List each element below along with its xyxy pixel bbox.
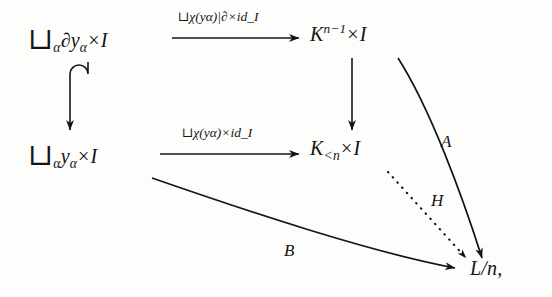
node-bottom-right: L/n, (470, 258, 502, 278)
arrow-dotted-h (388, 172, 466, 258)
times-symbol: × (346, 23, 359, 45)
node-top-right: Kn−1×I (310, 22, 367, 44)
node-top-left: ⊔α∂yα×I (28, 22, 108, 55)
node-top-right-base: K (310, 23, 324, 45)
node-top-left-y: y (71, 29, 80, 51)
edge-label-b: B (284, 242, 294, 259)
node-middle-right-base: K (310, 137, 324, 159)
arrow-left-vertical-inclusion (70, 62, 88, 130)
edge-label-top-horizontal: ⊔χ(yα)|∂×id_I (178, 10, 259, 24)
arrow-curve-a (398, 58, 482, 258)
times-symbol: × (87, 29, 100, 51)
edge-label-a: A (441, 133, 451, 150)
node-top-right-interval: I (360, 23, 367, 45)
node-middle-left-y: y (61, 145, 70, 167)
commutative-diagram: ⊔α∂yα×I Kn−1×I ⊔αyα×I K<n×I L/n, ⊔χ(yα)|… (0, 0, 552, 297)
edge-label-middle-horizontal: ⊔χ(yα)×id_I (182, 126, 252, 140)
node-top-right-exponent: n−1 (324, 21, 347, 36)
arrow-curve-b (152, 178, 455, 268)
node-middle-right-subscript: <n (324, 148, 340, 163)
node-middle-left-index: α (53, 156, 60, 171)
node-top-left-index: α (53, 40, 60, 55)
node-middle-left-interval: I (91, 145, 98, 167)
node-top-left-partial: ∂ (61, 29, 71, 51)
times-symbol: × (77, 145, 90, 167)
node-middle-right-interval: I (353, 137, 360, 159)
times-symbol: × (340, 137, 353, 159)
node-middle-left: ⊔αyα×I (28, 138, 97, 171)
edge-label-h: H (431, 192, 443, 209)
sqcup-operator-icon: ⊔ (28, 138, 53, 171)
node-middle-left-y-subscript: α (70, 156, 77, 171)
node-top-left-interval: I (101, 29, 108, 51)
sqcup-operator-icon: ⊔ (28, 22, 53, 55)
node-middle-right: K<n×I (310, 138, 360, 163)
